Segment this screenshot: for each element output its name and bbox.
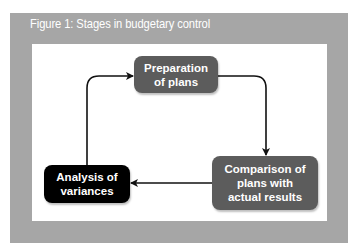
node-label-line: of plans [144,75,208,89]
node-preparation-of-plans: Preparation of plans [134,56,218,93]
node-label-line: Preparation [144,61,208,75]
node-label-line: Comparison of [224,162,305,176]
node-comparison-of-plans: Comparison of plans with actual results [212,156,318,210]
node-analysis-of-variances: Analysis of variances [44,165,130,203]
node-label-line: variances [56,184,117,198]
arrow-preparation-to-comparison [218,76,266,155]
arrow-analysis-to-preparation [87,76,133,165]
node-label-line: actual results [224,190,305,204]
node-label-line: Analysis of [56,170,117,184]
node-label-line: plans with [224,176,305,190]
